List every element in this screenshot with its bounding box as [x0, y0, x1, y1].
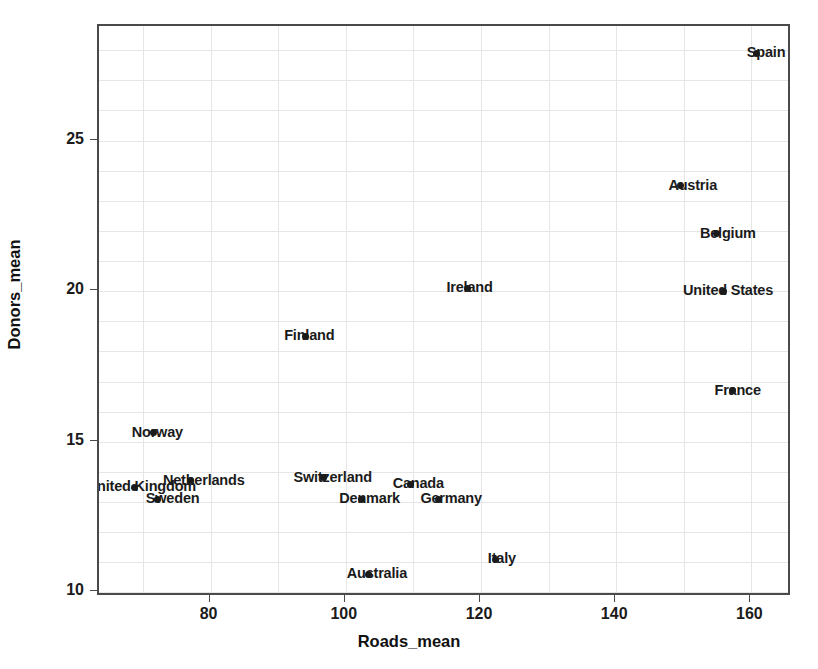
- x-tick-label: 140: [601, 605, 628, 623]
- gridline-horizontal: [99, 532, 788, 533]
- x-tick-label: 120: [466, 605, 493, 623]
- point-label: Switzerland: [293, 469, 371, 485]
- y-tick-mark: [90, 139, 97, 140]
- y-tick-label: 10: [52, 581, 84, 599]
- gridline-horizontal: [99, 141, 788, 142]
- y-tick-mark: [90, 289, 97, 290]
- x-axis-title: Roads_mean: [0, 632, 818, 651]
- x-tick-label: 80: [200, 605, 218, 623]
- point-label: Norway: [132, 424, 183, 440]
- gridline-horizontal: [99, 592, 788, 593]
- data-point-marker: [131, 484, 138, 491]
- gridline-horizontal: [99, 171, 788, 172]
- data-point-marker: [464, 285, 471, 292]
- data-point-marker: [407, 481, 414, 488]
- y-tick-label: 15: [52, 431, 84, 449]
- gridline-horizontal: [99, 110, 788, 111]
- point-label: France: [715, 382, 761, 398]
- gridline-horizontal: [99, 442, 788, 443]
- data-point-marker: [358, 496, 365, 503]
- data-point-marker: [720, 288, 727, 295]
- data-point-marker: [753, 50, 760, 57]
- x-tick-mark: [749, 595, 750, 602]
- gridline-horizontal: [99, 382, 788, 383]
- y-axis-title: Donors_mean: [5, 185, 24, 405]
- gridline-horizontal: [99, 412, 788, 413]
- x-tick-mark: [209, 595, 210, 602]
- point-label: Belgium: [700, 225, 756, 241]
- x-tick-mark: [479, 595, 480, 602]
- data-point-marker: [302, 333, 309, 340]
- gridline-horizontal: [99, 50, 788, 51]
- plot-area: SpainAustriaBelgiumUnited StatesIrelandF…: [97, 24, 790, 595]
- gridline-horizontal: [99, 80, 788, 81]
- y-tick-label: 20: [52, 280, 84, 298]
- scatter-plot-figure: SpainAustriaBelgiumUnited StatesIrelandF…: [0, 0, 818, 669]
- x-tick-mark: [344, 595, 345, 602]
- gridline-horizontal: [99, 261, 788, 262]
- gridline-horizontal: [99, 321, 788, 322]
- point-label: Finland: [284, 327, 334, 343]
- x-tick-label: 160: [736, 605, 763, 623]
- gridline-horizontal: [99, 351, 788, 352]
- gridline-horizontal: [99, 231, 788, 232]
- y-tick-mark: [90, 590, 97, 591]
- point-label: Canada: [393, 475, 444, 491]
- point-label: Australia: [347, 565, 407, 581]
- point-label: United States: [683, 282, 773, 298]
- data-point-marker: [154, 496, 161, 503]
- y-tick-mark: [90, 440, 97, 441]
- x-tick-label: 100: [330, 605, 357, 623]
- point-label: Germany: [420, 490, 481, 506]
- x-tick-mark: [614, 595, 615, 602]
- gridline-horizontal: [99, 201, 788, 202]
- gridline-horizontal: [99, 562, 788, 563]
- y-tick-label: 25: [52, 130, 84, 148]
- data-point-marker: [435, 496, 442, 503]
- point-label: Austria: [668, 177, 717, 193]
- point-label: Denmark: [339, 490, 400, 506]
